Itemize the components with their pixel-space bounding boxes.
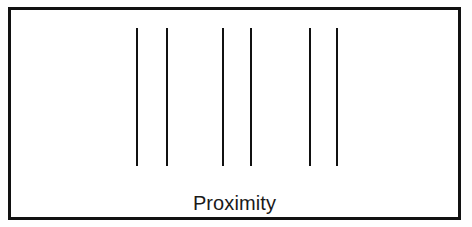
proximity-figure: Proximity bbox=[0, 0, 472, 227]
vertical-line-4 bbox=[250, 28, 252, 166]
vertical-line-1 bbox=[136, 28, 138, 166]
figure-caption: Proximity bbox=[11, 191, 458, 215]
vertical-line-3 bbox=[222, 28, 224, 166]
vertical-line-5 bbox=[309, 28, 311, 166]
figure-frame: Proximity bbox=[8, 7, 461, 220]
vertical-line-2 bbox=[166, 28, 168, 166]
vertical-line-6 bbox=[336, 28, 338, 166]
